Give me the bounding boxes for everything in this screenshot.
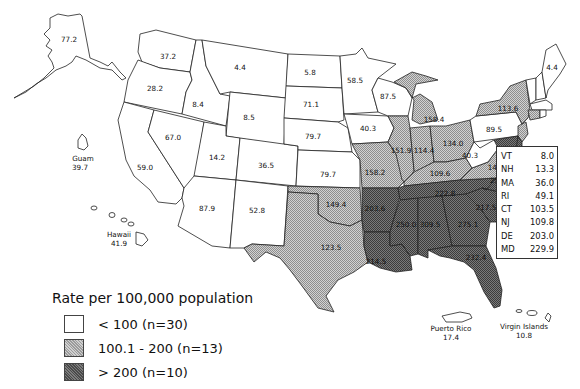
ne-state: NH	[501, 163, 514, 176]
label-IL: 151.9	[391, 146, 412, 155]
label-FL: 232.4	[466, 253, 487, 262]
legend-item-low: < 100 (n=30)	[64, 312, 253, 336]
label-NE: 79.7	[305, 132, 321, 141]
label-IA: 40.3	[360, 124, 376, 133]
label-IN: 114.4	[414, 146, 435, 155]
state-CT	[528, 110, 540, 120]
label-WY: 8.5	[243, 113, 254, 122]
label-MI: 158.4	[424, 115, 445, 124]
label-guam-value: 39.7	[72, 163, 88, 172]
ne-row: MD229.9	[501, 243, 554, 256]
label-SC: 217.5	[476, 203, 497, 212]
territory-guam	[78, 134, 88, 150]
legend-title: Rate per 100,000 population	[52, 290, 253, 306]
ne-value: 109.8	[530, 216, 554, 229]
label-WA: 37.2	[160, 52, 176, 61]
ne-state: CT	[501, 203, 512, 216]
northeast-values-box: VT8.0 NH13.3 MA36.0 RI49.1 CT103.5 NJ109…	[496, 146, 558, 259]
label-SD: 71.1	[303, 100, 319, 109]
territory-puerto-rico	[442, 312, 472, 322]
legend-label: 100.1 - 200 (n=13)	[98, 341, 223, 356]
label-CO: 36.5	[258, 161, 274, 170]
legend-item-high: > 200 (n=10)	[64, 360, 253, 384]
ne-row: NH13.3	[501, 163, 554, 176]
label-NV: 67.0	[165, 133, 181, 142]
ne-row: MA36.0	[501, 177, 554, 190]
label-AK: 77.2	[61, 35, 77, 44]
legend-swatch-white	[64, 315, 84, 333]
state-RI	[540, 110, 546, 118]
ne-value: 8.0	[541, 150, 554, 163]
label-AZ: 87.9	[199, 204, 215, 213]
label-MT: 4.4	[234, 63, 246, 72]
ne-row: DE203.0	[501, 230, 554, 243]
label-OK: 149.4	[326, 200, 347, 209]
ne-value: 49.1	[535, 190, 554, 203]
label-GA: 275.1	[458, 220, 479, 229]
ne-value: 103.5	[530, 203, 554, 216]
ne-state: MA	[501, 177, 514, 190]
ne-value: 229.9	[530, 243, 554, 256]
label-WV: 40.3	[462, 151, 478, 160]
ne-value: 203.0	[530, 230, 554, 243]
label-vi-name: Virgin Islands	[500, 322, 548, 331]
label-guam-name: Guam	[72, 154, 94, 163]
ne-state: VT	[501, 150, 512, 163]
ne-row: NJ109.8	[501, 216, 554, 229]
label-AL: 309.5	[420, 220, 441, 229]
ne-state: NJ	[501, 216, 510, 229]
label-KY: 109.6	[430, 169, 451, 178]
territory-virgin-islands	[516, 310, 551, 323]
label-PA: 89.5	[486, 125, 502, 134]
label-MO: 158.2	[365, 168, 386, 177]
label-NM: 52.8	[249, 206, 265, 215]
label-ME: 4.4	[546, 63, 558, 72]
label-OH: 134.0	[443, 139, 464, 148]
label-WI: 87.5	[380, 92, 396, 101]
state-KS	[296, 150, 360, 188]
ne-value: 13.3	[535, 163, 554, 176]
state-AK	[14, 14, 126, 98]
ne-state: RI	[501, 190, 509, 203]
label-TN: 222.8	[435, 189, 456, 198]
label-MS: 250.0	[396, 220, 417, 229]
label-vi-value: 10.8	[516, 331, 532, 340]
label-ID: 8.4	[192, 100, 204, 109]
label-ND: 5.8	[304, 68, 316, 77]
label-UT: 14.2	[209, 153, 225, 162]
ne-value: 36.0	[535, 177, 554, 190]
label-KS: 79.7	[320, 170, 336, 179]
label-pr-name: Puerto Rico	[431, 324, 472, 333]
label-CA: 59.0	[137, 163, 153, 172]
label-LA: 214.5	[366, 257, 387, 266]
label-TX: 123.5	[321, 243, 342, 252]
label-MN: 58.5	[347, 76, 363, 85]
ne-state: DE	[501, 230, 513, 243]
label-hawaii-name: Hawaii	[107, 230, 131, 239]
ne-state: MD	[501, 243, 515, 256]
label-hawaii-value: 41.9	[111, 239, 127, 248]
label-OR: 28.2	[147, 84, 163, 93]
ne-row: RI49.1	[501, 190, 554, 203]
legend-swatch-light-hatch	[64, 339, 84, 357]
legend-swatch-dark-hatch	[64, 363, 84, 381]
legend-label: > 200 (n=10)	[98, 365, 188, 380]
label-pr-value: 17.4	[443, 333, 459, 342]
label-NY: 113.6	[498, 104, 519, 113]
label-AR: 203.6	[365, 204, 386, 213]
legend-item-mid: 100.1 - 200 (n=13)	[64, 336, 253, 360]
ne-row: VT8.0	[501, 150, 554, 163]
legend-label: < 100 (n=30)	[98, 317, 188, 332]
map-legend: Rate per 100,000 population < 100 (n=30)…	[52, 290, 253, 384]
ne-row: CT103.5	[501, 203, 554, 216]
